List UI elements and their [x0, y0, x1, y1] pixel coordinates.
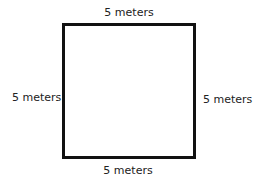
left-side-label: 5 meters [12, 91, 61, 104]
top-side-label: 5 meters [0, 6, 258, 19]
right-side-label: 5 meters [203, 93, 252, 106]
square-shape [62, 23, 196, 159]
bottom-side-label: 5 meters [0, 164, 256, 177]
